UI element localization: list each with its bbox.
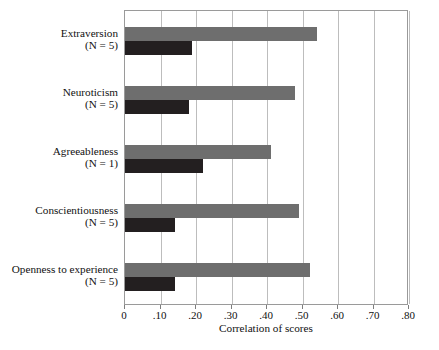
bar-lower [125, 218, 175, 232]
gridline [409, 11, 410, 304]
bar-lower [125, 41, 192, 55]
x-axis-title: Correlation of scores [124, 322, 408, 334]
x-tick-label: 0 [121, 309, 127, 321]
category-label-count: (N = 5) [0, 216, 118, 229]
x-tick-label: .50 [295, 309, 309, 321]
x-tick-label: .60 [330, 309, 344, 321]
category-label-name: Openness to experience [0, 263, 118, 276]
x-tick-label: .30 [224, 309, 238, 321]
category-label-name: Extraversion [0, 27, 118, 40]
gridline [338, 11, 339, 304]
bar-upper [125, 27, 317, 41]
category-label: Openness to experience(N = 5) [0, 263, 118, 288]
category-label-name: Conscientiousness [0, 204, 118, 217]
bar-upper [125, 86, 295, 100]
category-label: Neuroticism(N = 5) [0, 86, 118, 111]
bar-lower [125, 100, 189, 114]
gridline [374, 11, 375, 304]
category-label-name: Agreeableness [0, 145, 118, 158]
category-label: Extraversion(N = 5) [0, 27, 118, 52]
category-label-name: Neuroticism [0, 86, 118, 99]
x-tick-label: .20 [188, 309, 202, 321]
bar-upper [125, 263, 310, 277]
x-tick-label: .80 [401, 309, 415, 321]
gridline [303, 11, 304, 304]
category-label-count: (N = 5) [0, 98, 118, 111]
bar-lower [125, 159, 203, 173]
bar-lower [125, 277, 175, 291]
category-axis-labels: Extraversion(N = 5)Neuroticism(N = 5)Agr… [0, 0, 118, 300]
category-label-count: (N = 1) [0, 157, 118, 170]
plot-area [124, 10, 408, 305]
category-label: Conscientiousness(N = 5) [0, 204, 118, 229]
category-label-count: (N = 5) [0, 275, 118, 288]
category-label-count: (N = 5) [0, 39, 118, 52]
horizontal-bar-chart: Extraversion(N = 5)Neuroticism(N = 5)Agr… [0, 0, 439, 350]
x-tick-label: .70 [366, 309, 380, 321]
bar-upper [125, 145, 271, 159]
x-tick-label: .10 [153, 309, 167, 321]
category-label: Agreeableness(N = 1) [0, 145, 118, 170]
x-tick-label: .40 [259, 309, 273, 321]
bar-upper [125, 204, 299, 218]
